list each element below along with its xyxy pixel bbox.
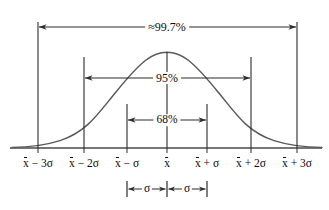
x-bar-glyph: x xyxy=(164,158,170,170)
x-bar-glyph: x xyxy=(69,158,75,170)
axis-label-minus-3-sigma: x − 3σ xyxy=(23,158,53,170)
axis-label-plus-1-sigma: x + σ xyxy=(195,158,219,170)
axis-label-minus-1-sigma: x − σ xyxy=(115,158,139,170)
axis-label-suffix: − 3σ xyxy=(29,157,53,169)
axis-label-plus-2-sigma: x + 2σ xyxy=(236,158,266,170)
sigma-span-bars xyxy=(127,181,207,197)
reference-lines xyxy=(38,22,297,148)
x-axis xyxy=(10,148,322,153)
label-68-percent: 68% xyxy=(153,114,180,126)
axis-label-mean: x xyxy=(164,158,170,170)
axis-label-suffix: + σ xyxy=(201,157,219,169)
label-sigma-left: σ xyxy=(142,183,152,195)
axis-label-suffix: − 2σ xyxy=(75,157,99,169)
x-bar-glyph: x xyxy=(195,158,201,170)
x-bar-glyph: x xyxy=(282,158,288,170)
axis-label-suffix: − σ xyxy=(121,157,139,169)
x-bar-glyph: x xyxy=(115,158,121,170)
label-95-percent: 95% xyxy=(153,72,181,84)
label-997-percent: ≈99.7% xyxy=(145,21,189,33)
x-bar-glyph: x xyxy=(236,158,242,170)
label-sigma-right: σ xyxy=(182,183,192,195)
axis-label-suffix: + 3σ xyxy=(288,157,312,169)
axis-label-plus-3-sigma: x + 3σ xyxy=(282,158,312,170)
axis-label-minus-2-sigma: x − 2σ xyxy=(69,158,99,170)
axis-label-suffix: + 2σ xyxy=(242,157,266,169)
x-bar-glyph: x xyxy=(23,158,29,170)
normal-distribution-figure: ≈99.7% 95% 68% σ σ x − 3σ x − 2σ x − σ x… xyxy=(0,0,329,210)
